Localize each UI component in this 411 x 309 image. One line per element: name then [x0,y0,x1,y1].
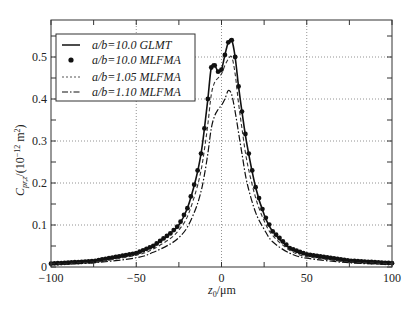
legend: a/b=10.0 GLMT a/b=10.0 MLFMA a/b=1.05 ML… [56,34,195,101]
y-tick-label: 0.5 [32,50,47,64]
data-marker [202,126,207,131]
x-tick-label: 100 [383,271,401,285]
data-marker [192,182,197,187]
data-marker [171,228,176,233]
legend-swatch-marker [68,57,73,62]
data-marker [205,97,210,102]
y-tick-label: 0.1 [32,218,47,232]
x-tick-label: −50 [127,271,146,285]
data-marker [195,168,200,173]
data-marker [229,38,234,43]
chart: −100−5005010000.10.20.30.40.5 a/b=10.0 G… [0,0,411,309]
data-marker [223,53,228,58]
data-marker [175,224,180,229]
data-marker [188,194,193,199]
y-tick-label: 0.3 [32,134,47,148]
y-axis-label: Cpr,z/(10−12 m2) [13,124,29,196]
data-marker [199,151,204,156]
legend-label-mlfma-10: a/b=10.0 MLFMA [92,53,181,67]
x-tick-label: 50 [301,271,313,285]
y-tick-label: 0 [41,260,47,274]
data-marker [233,55,238,60]
data-marker [260,207,265,212]
legend-label-glmt: a/b=10.0 GLMT [92,38,173,52]
data-marker [246,151,251,156]
data-marker [250,168,255,173]
data-marker [185,206,190,211]
data-marker [168,231,173,236]
legend-label-mlfma-105: a/b=1.05 MLFMA [92,70,181,84]
data-marker [274,232,279,237]
y-tick-label: 0.2 [32,176,47,190]
x-axis-label: z0/μm [207,283,236,299]
data-marker [178,219,183,224]
legend-label-mlfma-110: a/b=1.10 MLFMA [92,85,181,99]
data-marker [182,213,187,218]
data-marker [277,236,282,241]
data-marker [243,132,248,137]
data-marker [257,196,262,201]
data-marker [267,222,272,227]
data-marker [253,185,258,190]
y-tick-label: 0.4 [32,92,47,106]
data-marker [280,239,285,244]
data-marker [212,63,217,68]
data-marker [219,67,224,72]
